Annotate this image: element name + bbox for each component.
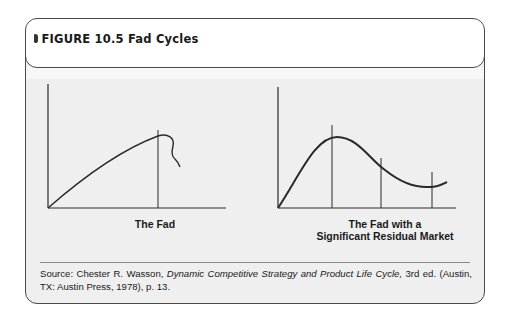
caption-line: The Fad bbox=[95, 218, 215, 230]
fad-curve bbox=[48, 135, 180, 208]
caption-fad-residual: The Fad with a Significant Residual Mark… bbox=[300, 218, 470, 242]
source-citation: Source: Chester R. Wasson, Dynamic Compe… bbox=[40, 267, 472, 293]
caption-the-fad: The Fad bbox=[95, 218, 215, 230]
source-prefix: Source: Chester R. Wasson, bbox=[40, 268, 167, 279]
chart-the-fad bbox=[48, 84, 226, 208]
source-separator bbox=[40, 262, 470, 263]
caption-line: The Fad with a bbox=[300, 218, 470, 230]
chart-fad-residual bbox=[278, 87, 456, 208]
residual-curve bbox=[278, 137, 447, 208]
source-book-title: Dynamic Competitive Strategy and Product… bbox=[167, 268, 402, 279]
caption-line: Significant Residual Market bbox=[300, 230, 470, 242]
